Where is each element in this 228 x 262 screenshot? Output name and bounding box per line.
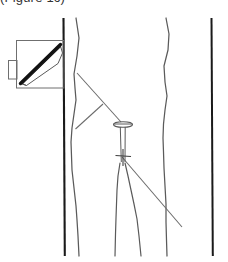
needle-shaft-left	[120, 127, 121, 162]
left-leg-contour	[71, 18, 79, 256]
figure-drawing	[0, 0, 228, 262]
needle-marker-group	[114, 122, 133, 166]
upper-chord-line	[77, 73, 121, 122]
right-leg-contour	[163, 18, 169, 256]
body-outline-group	[64, 18, 213, 256]
inner-left-contour	[115, 163, 120, 256]
right-vertical-rail	[212, 18, 213, 256]
probe-inset-group	[9, 41, 65, 89]
probe-inset-connector-tab	[9, 61, 18, 80]
figure-root: (Figure 1c)	[0, 0, 228, 262]
lower-chord-line	[76, 104, 104, 129]
